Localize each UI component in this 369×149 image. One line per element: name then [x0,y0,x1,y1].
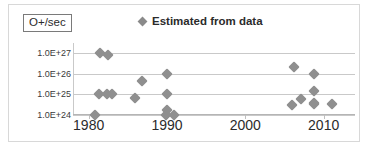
x-axis-tick-label: 2010 [308,117,339,133]
chart-frame: O+/sec Estimated from data 1.0E+241.0E+2… [8,4,360,142]
x-axis-tick-label: 2000 [230,117,261,133]
data-point [136,75,147,86]
gridline [73,53,355,54]
y-axis-tick-label: 1.0E+27 [37,48,71,58]
y-axis-tick-labels: 1.0E+241.0E+251.0E+261.0E+27 [21,43,71,115]
data-point [288,62,299,73]
diamond-marker-icon [138,16,148,26]
data-point [286,99,297,110]
chart-screenshot: O+/sec Estimated from data 1.0E+241.0E+2… [0,0,369,149]
legend-label: Estimated from data [152,15,263,27]
chart-legend: Estimated from data [139,15,263,27]
y-axis-tick-label: 1.0E+26 [37,69,71,79]
data-point [309,68,320,79]
gridline [73,115,355,116]
x-axis-tick-labels: 1980199020002010 [73,117,355,139]
data-point [161,89,172,100]
x-axis-tick-label: 1980 [73,117,104,133]
y-axis-tick-label: 1.0E+24 [37,110,71,120]
data-point [327,98,338,109]
data-point [161,68,172,79]
y-axis-tick-label: 1.0E+25 [37,89,71,99]
y-axis-title: O+/sec [23,14,72,32]
x-axis-tick-label: 1990 [151,117,182,133]
plot-area [73,43,355,115]
